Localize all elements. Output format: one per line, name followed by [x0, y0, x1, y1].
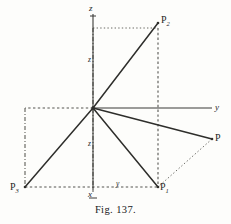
figure-caption: Fig. 137. [0, 204, 231, 215]
segment-label-z-lower: z [88, 140, 91, 148]
ray-origin-to-p [93, 108, 212, 139]
ray-origin-to-p1 [93, 108, 158, 187]
point-label-p: P [215, 133, 221, 146]
ray-origin-to-p2 [93, 23, 158, 108]
figure-drawing [0, 0, 231, 224]
point-label-p-base: P [215, 132, 221, 143]
axis-label-x: x [88, 190, 92, 199]
point-label-p2: P2 [161, 15, 170, 28]
node-p [211, 138, 214, 141]
ray-origin-to-p3 [25, 108, 93, 187]
axis-label-z: z [89, 4, 93, 13]
construction-p-to-p1-diagonal [158, 139, 212, 187]
point-label-p1: P1 [160, 182, 169, 195]
point-label-p3-subscript: 3 [16, 187, 19, 194]
figure-container: z y x z z y P2 P P1 P3 Fig. 137. [0, 0, 231, 224]
node-p1 [157, 186, 160, 189]
segment-label-y-base: y [116, 180, 119, 188]
point-label-p2-subscript: 2 [167, 20, 170, 27]
point-label-p1-subscript: 1 [166, 187, 169, 194]
node-p3 [24, 186, 27, 189]
node-p2 [157, 22, 160, 25]
point-label-p3: P3 [10, 182, 19, 195]
node-origin [91, 106, 94, 109]
segment-label-z-upper: z [88, 56, 91, 64]
axis-label-y: y [215, 103, 219, 112]
